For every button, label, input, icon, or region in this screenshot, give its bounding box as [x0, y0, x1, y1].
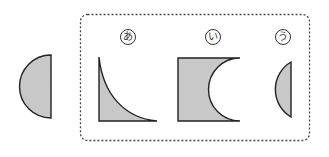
choice-u-shape[interactable]	[275, 62, 291, 117]
choice-u-label: う	[275, 29, 291, 45]
choice-i-label: い	[205, 29, 221, 45]
figure-canvas	[0, 0, 329, 157]
source-semicircle-shape	[20, 55, 51, 118]
choice-a-label: あ	[120, 29, 136, 45]
